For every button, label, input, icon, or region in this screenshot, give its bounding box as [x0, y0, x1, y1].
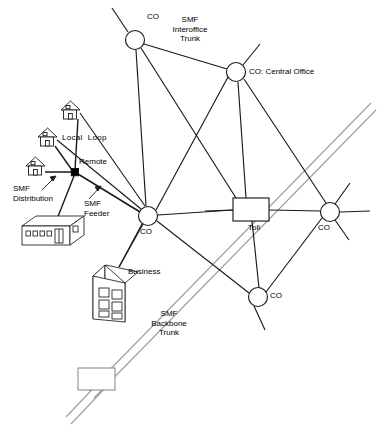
link-co-bottom-stub — [254, 306, 265, 330]
node-label-toll: Toll — [248, 223, 260, 233]
link-co-right-stub-ne — [335, 183, 350, 204]
label-smf-interoffice-trunk: SMF Interoffice Trunk — [160, 15, 220, 44]
node-toll — [233, 198, 269, 221]
label-business: Business — [128, 267, 160, 277]
link-local-loop-house-top — [75, 119, 78, 170]
network-diagram: CO CO: Central Office CO CO CO Toll Remo… — [0, 0, 377, 429]
node-label-co-left: CO — [140, 227, 152, 237]
node-label-co-top: CO — [147, 12, 159, 22]
node-co-bottom — [249, 288, 268, 307]
node-end-box — [78, 368, 115, 390]
link-co-top--co-left — [136, 50, 146, 206]
node-remote — [71, 168, 78, 175]
node-label-co-bottom: CO — [270, 291, 282, 301]
node-label-co-central-office: CO: Central Office — [249, 67, 314, 77]
node-co-left — [139, 207, 158, 226]
house-bottom — [26, 157, 45, 175]
link-co-central-stub — [243, 44, 260, 65]
link-co-right-stub-se — [335, 220, 349, 240]
node-label-remote: Remote — [79, 157, 107, 167]
link-co-central--toll — [238, 82, 246, 198]
node-co-central-office — [227, 63, 246, 82]
link-co-top-stub — [112, 8, 128, 32]
link-co-central--co-right — [244, 79, 326, 203]
label-local-loop: Local Loop — [62, 133, 136, 143]
network-diagram-canvas — [0, 0, 377, 429]
link-co-right--co-bottom — [266, 218, 322, 292]
label-smf-backbone-trunk: SMF Backbone Trunk — [140, 309, 198, 338]
distribution-building — [22, 216, 84, 245]
label-smf-feeder: SMF Feeder — [84, 199, 128, 218]
node-co-top — [126, 31, 145, 50]
link-co-top--toll — [141, 48, 236, 198]
leader-arrow-smf-feeder — [95, 186, 101, 191]
house-top — [61, 101, 80, 119]
link-co-left--co-bottom — [157, 221, 249, 293]
house-middle — [38, 128, 57, 146]
node-co-right — [321, 203, 340, 222]
leader-arrow-smf-distribution — [50, 176, 56, 181]
node-label-co-right: CO — [318, 223, 330, 233]
link-co-top--co-central — [144, 44, 227, 69]
link-co-right-stub-east — [340, 211, 370, 212]
link-co-central--co-left — [156, 77, 228, 210]
label-smf-distribution: SMF Distribution — [13, 184, 79, 203]
